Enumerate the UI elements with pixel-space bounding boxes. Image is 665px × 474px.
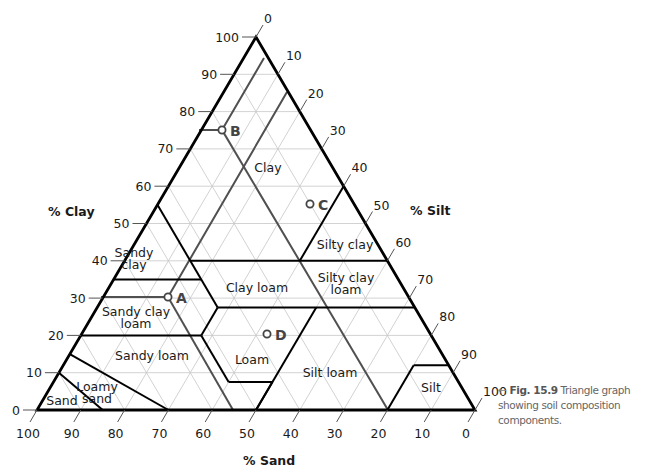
tick-label-sand: 40 xyxy=(283,426,299,441)
tick-label-silt: 70 xyxy=(417,272,433,287)
tick-sand xyxy=(468,410,475,422)
tick-label-silt: 90 xyxy=(461,347,477,362)
tick-silt xyxy=(453,361,460,373)
tick-silt xyxy=(322,137,329,149)
region-label: Silt loam xyxy=(303,365,358,380)
tick-label-silt: 20 xyxy=(308,86,324,101)
tick-silt xyxy=(344,174,351,186)
tick-label-clay: 100 xyxy=(215,30,239,45)
sample-points: ABCD xyxy=(164,123,328,343)
class-boundary xyxy=(387,365,413,410)
region-label: Sand xyxy=(46,393,77,408)
tick-label-sand: 90 xyxy=(64,426,80,441)
region-label: Clay loam xyxy=(226,280,288,295)
tick-sand xyxy=(424,410,431,422)
tick-sand xyxy=(249,410,256,422)
region-label: Loam xyxy=(235,352,269,367)
sample-point-a xyxy=(164,293,171,300)
tick-label-sand: 20 xyxy=(370,426,386,441)
tick-label-sand: 80 xyxy=(108,426,124,441)
sample-point-label: D xyxy=(275,327,287,343)
tick-silt xyxy=(256,25,263,37)
tick-label-clay: 0 xyxy=(12,403,20,418)
tick-silt xyxy=(366,212,373,224)
class-boundary xyxy=(201,335,228,382)
tick-label-sand: 50 xyxy=(239,426,255,441)
tick-label-sand: 0 xyxy=(462,426,470,441)
tick-label-silt: 10 xyxy=(286,48,302,63)
tick-sand xyxy=(161,410,168,422)
tick-silt xyxy=(409,286,416,298)
sample-point-label: C xyxy=(318,197,328,213)
sand-axis-label: % Sand xyxy=(243,453,295,468)
tick-sand xyxy=(74,410,81,422)
region-label: Silty clay xyxy=(317,237,374,252)
tick-label-sand: 70 xyxy=(151,426,167,441)
tick-label-sand: 100 xyxy=(16,426,40,441)
tick-silt xyxy=(387,249,394,261)
tick-label-sand: 10 xyxy=(414,426,430,441)
tick-label-silt: 50 xyxy=(374,198,390,213)
region-label: Sandy loam xyxy=(115,348,189,363)
axis-ticks: 0102030405060708090100010203040506070809… xyxy=(12,11,507,441)
tick-label-silt: 0 xyxy=(264,11,272,26)
figure-number: Fig. 15.9 xyxy=(509,384,557,396)
tick-label-clay: 10 xyxy=(26,365,42,380)
region-label: Loamysand xyxy=(76,379,118,406)
tick-label-clay: 50 xyxy=(114,216,130,231)
region-label: Silty clayloam xyxy=(318,270,375,297)
tick-sand xyxy=(118,410,125,422)
silt-axis-label: % Silt xyxy=(410,203,450,218)
arrow-left-icon: ← xyxy=(498,384,506,396)
tick-label-silt: 80 xyxy=(439,309,455,324)
tick-silt xyxy=(431,323,438,335)
tick-label-clay: 60 xyxy=(135,179,151,194)
tick-label-silt: 30 xyxy=(330,123,346,138)
class-boundary xyxy=(157,205,217,308)
sample-point-b xyxy=(218,126,225,133)
grid-line-silt xyxy=(344,298,410,410)
region-label: Sandyclay xyxy=(115,245,154,272)
tick-label-clay: 30 xyxy=(70,291,86,306)
sample-point-label: A xyxy=(176,290,187,306)
sample-point-label: B xyxy=(230,123,241,139)
figure-caption: ←Fig. 15.9 Triangle graph showing soil c… xyxy=(498,383,663,428)
tick-sand xyxy=(337,410,344,422)
tick-sand xyxy=(205,410,212,422)
tick-label-sand: 30 xyxy=(327,426,343,441)
tick-sand xyxy=(30,410,37,422)
tick-label-clay: 70 xyxy=(157,141,173,156)
region-label: Clay xyxy=(254,160,282,175)
tick-sand xyxy=(380,410,387,422)
tick-label-clay: 90 xyxy=(201,67,217,82)
region-label: Sandy clayloam xyxy=(102,304,171,331)
sample-point-d xyxy=(263,330,270,337)
clay-axis-label: % Clay xyxy=(48,204,95,219)
tick-silt xyxy=(300,100,307,112)
tick-label-clay: 40 xyxy=(92,253,108,268)
tick-silt xyxy=(278,62,285,74)
tick-label-clay: 20 xyxy=(48,328,64,343)
tick-label-clay: 80 xyxy=(179,104,195,119)
tick-label-silt: 40 xyxy=(352,160,368,175)
tick-sand xyxy=(293,410,300,422)
sample-point-c xyxy=(306,200,313,207)
tick-label-silt: 60 xyxy=(395,235,411,250)
tick-label-sand: 60 xyxy=(195,426,211,441)
region-label: Silt xyxy=(421,380,441,395)
tick-silt xyxy=(475,398,482,410)
